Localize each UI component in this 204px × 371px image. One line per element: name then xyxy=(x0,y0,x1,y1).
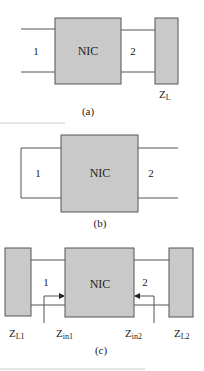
port1-label: 1 xyxy=(35,167,41,179)
port2-label: 2 xyxy=(142,276,148,288)
diagram-a: NIC 1 2 ZL (a) xyxy=(21,18,178,118)
nic-figure: NIC 1 2 ZL (a) NIC 1 2 (b) 1 NIC 2 ZL1 Z… xyxy=(0,0,204,371)
caption-a: (a) xyxy=(82,105,95,118)
zin1-arrow xyxy=(44,296,64,323)
load2-block xyxy=(169,248,193,317)
zin1-label: Zin1 xyxy=(56,327,73,341)
zin2-arrow xyxy=(135,296,154,323)
diagram-b: NIC 1 2 (b) xyxy=(21,135,178,230)
load-block xyxy=(155,18,178,84)
port2-label: 2 xyxy=(130,45,136,57)
nic-label: NIC xyxy=(78,44,99,58)
port1-label: 1 xyxy=(43,276,49,288)
load1-block xyxy=(5,248,31,316)
nic-label: NIC xyxy=(90,166,111,180)
port2-label: 2 xyxy=(148,167,154,179)
port1-label: 1 xyxy=(33,45,39,57)
nic-label: NIC xyxy=(90,277,111,291)
diagram-c: 1 NIC 2 ZL1 Zin1 Zin2 ZL2 (c) xyxy=(5,248,193,357)
load-label: ZL xyxy=(159,88,171,102)
caption-c: (c) xyxy=(95,344,108,357)
caption-b: (b) xyxy=(94,217,107,230)
port1-loop-wire xyxy=(21,148,61,198)
zin2-label: Zin2 xyxy=(125,327,142,341)
load1-label: ZL1 xyxy=(9,327,25,341)
load2-label: ZL2 xyxy=(174,327,190,341)
